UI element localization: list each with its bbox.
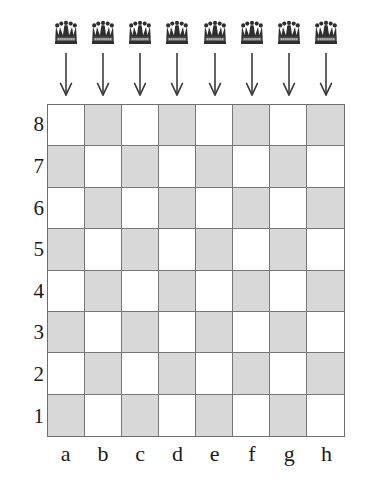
board-square-d7[interactable] [159, 146, 196, 187]
board-square-g6[interactable] [270, 188, 307, 229]
board-square-f8[interactable] [233, 105, 270, 146]
board-square-c3[interactable] [122, 312, 159, 353]
board-square-f4[interactable] [233, 271, 270, 312]
board-square-b8[interactable] [85, 105, 122, 146]
board-square-h1[interactable] [307, 395, 344, 436]
board-square-f5[interactable] [233, 229, 270, 270]
board-square-a7[interactable] [48, 146, 85, 187]
board-square-b5[interactable] [85, 229, 122, 270]
board-square-g8[interactable] [270, 105, 307, 146]
board-square-c2[interactable] [122, 353, 159, 394]
board-square-d8[interactable] [159, 105, 196, 146]
board-square-b2[interactable] [85, 353, 122, 394]
board-square-c4[interactable] [122, 271, 159, 312]
queen-crown-icon [239, 20, 265, 46]
rank-label-8: 8 [18, 104, 44, 146]
file-label-d: d [159, 442, 196, 476]
file-label-a: a [47, 442, 84, 476]
arrow-down-icon-e [196, 53, 233, 98]
board-square-g2[interactable] [270, 353, 307, 394]
board-square-e1[interactable] [196, 395, 233, 436]
board-square-d4[interactable] [159, 271, 196, 312]
file-label-e: e [196, 442, 233, 476]
rank-label-3: 3 [18, 312, 44, 354]
queen-crown-icon [164, 20, 190, 46]
arrow-down-icon-c [122, 53, 159, 98]
board-square-e8[interactable] [196, 105, 233, 146]
board-square-f1[interactable] [233, 395, 270, 436]
rank-label-6: 6 [18, 187, 44, 229]
rank-label-7: 7 [18, 146, 44, 188]
file-label-g: g [271, 442, 308, 476]
rank-label-column: 87654321 [18, 104, 44, 437]
board-square-b7[interactable] [85, 146, 122, 187]
board-square-a4[interactable] [48, 271, 85, 312]
board-square-b3[interactable] [85, 312, 122, 353]
board-square-f6[interactable] [233, 188, 270, 229]
arrow-down-icon-d [159, 53, 196, 98]
board-square-e7[interactable] [196, 146, 233, 187]
board-square-c1[interactable] [122, 395, 159, 436]
board-square-e5[interactable] [196, 229, 233, 270]
board-square-g5[interactable] [270, 229, 307, 270]
chessboard-container [47, 104, 345, 437]
queen-piece-e [196, 20, 233, 50]
queen-piece-d [159, 20, 196, 50]
board-square-b1[interactable] [85, 395, 122, 436]
board-square-a2[interactable] [48, 353, 85, 394]
queen-crown-icon [202, 20, 228, 46]
rank-label-1: 1 [18, 395, 44, 437]
queen-crown-icon [53, 20, 79, 46]
board-square-e3[interactable] [196, 312, 233, 353]
board-square-f3[interactable] [233, 312, 270, 353]
board-square-h2[interactable] [307, 353, 344, 394]
board-square-h8[interactable] [307, 105, 344, 146]
board-square-g4[interactable] [270, 271, 307, 312]
board-square-d5[interactable] [159, 229, 196, 270]
board-square-g7[interactable] [270, 146, 307, 187]
queen-crown-icon [276, 20, 302, 46]
board-square-a5[interactable] [48, 229, 85, 270]
board-square-h7[interactable] [307, 146, 344, 187]
board-square-b4[interactable] [85, 271, 122, 312]
board-square-a3[interactable] [48, 312, 85, 353]
board-square-b6[interactable] [85, 188, 122, 229]
queen-piece-f [233, 20, 270, 50]
queen-crown-icon [90, 20, 116, 46]
board-square-f2[interactable] [233, 353, 270, 394]
board-square-h5[interactable] [307, 229, 344, 270]
board-square-c8[interactable] [122, 105, 159, 146]
board-square-d6[interactable] [159, 188, 196, 229]
chess-diagram: 87654321 abcdefgh [0, 0, 377, 492]
file-label-row: abcdefgh [47, 442, 345, 476]
arrow-down-icon-f [233, 53, 270, 98]
board-square-h3[interactable] [307, 312, 344, 353]
board-square-a8[interactable] [48, 105, 85, 146]
board-square-c5[interactable] [122, 229, 159, 270]
rank-label-2: 2 [18, 354, 44, 396]
rank-label-4: 4 [18, 271, 44, 313]
board-square-h6[interactable] [307, 188, 344, 229]
rank-label-5: 5 [18, 229, 44, 271]
arrow-down-icon-b [84, 53, 121, 98]
board-square-e6[interactable] [196, 188, 233, 229]
queen-piece-c [122, 20, 159, 50]
file-label-b: b [84, 442, 121, 476]
arrow-down-icon-a [47, 53, 84, 98]
queen-row [47, 20, 345, 50]
board-square-f7[interactable] [233, 146, 270, 187]
board-square-h4[interactable] [307, 271, 344, 312]
board-square-a6[interactable] [48, 188, 85, 229]
board-square-d3[interactable] [159, 312, 196, 353]
board-square-e4[interactable] [196, 271, 233, 312]
board-square-a1[interactable] [48, 395, 85, 436]
board-square-c6[interactable] [122, 188, 159, 229]
file-label-c: c [122, 442, 159, 476]
board-square-e2[interactable] [196, 353, 233, 394]
board-square-g3[interactable] [270, 312, 307, 353]
board-square-c7[interactable] [122, 146, 159, 187]
board-square-d2[interactable] [159, 353, 196, 394]
board-square-g1[interactable] [270, 395, 307, 436]
board-square-d1[interactable] [159, 395, 196, 436]
file-label-f: f [233, 442, 270, 476]
